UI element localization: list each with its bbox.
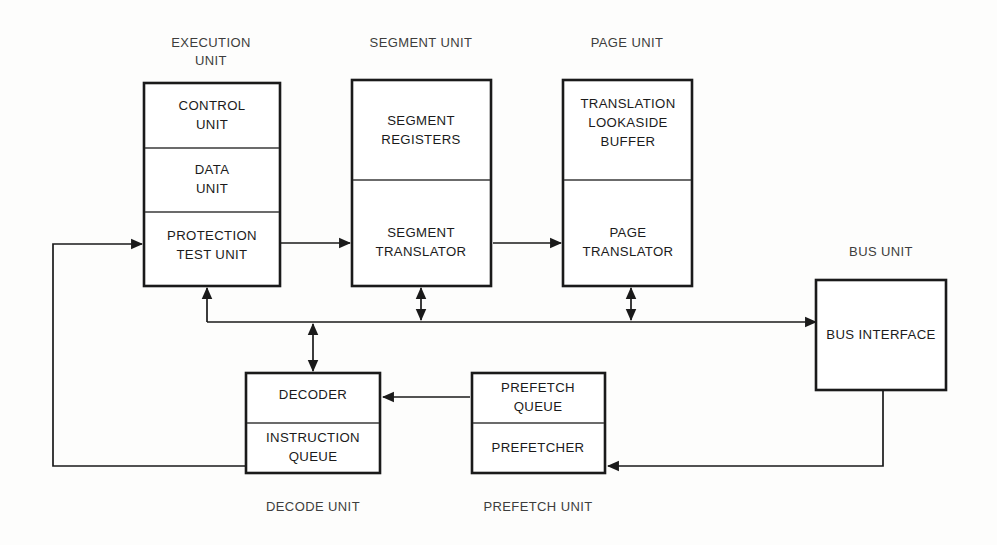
unit-title-execution-unit: EXECUTION UNIT xyxy=(171,35,250,68)
connection-bus-interface-to-prefetcher xyxy=(608,392,883,466)
segment-registers-label-line1: SEGMENT xyxy=(387,113,455,128)
segment-unit-box[interactable]: SEGMENT REGISTERS SEGMENT TRANSLATOR xyxy=(352,80,491,286)
bus-interface-label: BUS INTERFACE xyxy=(826,327,935,342)
cell-decoder[interactable]: DECODER xyxy=(279,387,347,402)
tlb-label-line1: TRANSLATION xyxy=(580,96,675,111)
prefetch-queue-label-line1: PREFETCH xyxy=(501,380,575,395)
prefetch-unit-box[interactable]: PREFETCH QUEUE PREFETCHER xyxy=(472,373,605,473)
data-unit-label-line2: UNIT xyxy=(196,181,228,196)
page-unit-box[interactable]: TRANSLATION LOOKASIDE BUFFER PAGE TRANSL… xyxy=(563,80,692,286)
execution-unit-title-line1: EXECUTION xyxy=(171,35,250,50)
segment-translator-label-line2: TRANSLATOR xyxy=(376,244,467,259)
page-translator-label-line2: TRANSLATOR xyxy=(583,244,674,259)
bus-unit-box[interactable]: BUS INTERFACE xyxy=(816,280,946,390)
data-unit-label-line1: DATA xyxy=(195,162,230,177)
diagram-canvas: EXECUTION UNIT SEGMENT UNIT PAGE UNIT BU… xyxy=(0,0,997,545)
segment-unit-title: SEGMENT UNIT xyxy=(370,35,473,50)
protection-test-unit-label-line1: PROTECTION xyxy=(167,228,257,243)
decoder-label: DECODER xyxy=(279,387,347,402)
prefetcher-label: PREFETCHER xyxy=(492,440,585,455)
page-translator-label-line1: PAGE xyxy=(609,225,646,240)
decode-unit-title: DECODE UNIT xyxy=(266,499,360,514)
control-unit-label-line1: CONTROL xyxy=(179,98,246,113)
instruction-queue-label-line1: INSTRUCTION xyxy=(266,430,360,445)
prefetch-unit-title: PREFETCH UNIT xyxy=(483,499,592,514)
tlb-label-line3: BUFFER xyxy=(601,134,656,149)
execution-unit-title-line2: UNIT xyxy=(195,53,227,68)
page-unit-title: PAGE UNIT xyxy=(591,35,664,50)
processor-block-diagram: EXECUTION UNIT SEGMENT UNIT PAGE UNIT BU… xyxy=(0,0,997,545)
decode-unit-box[interactable]: DECODER INSTRUCTION QUEUE xyxy=(246,373,380,473)
cell-bus-interface[interactable]: BUS INTERFACE xyxy=(826,327,935,342)
control-unit-label-line2: UNIT xyxy=(196,117,228,132)
instruction-queue-label-line2: QUEUE xyxy=(289,449,338,464)
execution-unit-box[interactable]: CONTROL UNIT DATA UNIT PROTECTION TEST U… xyxy=(144,83,280,286)
tlb-label-line2: LOOKASIDE xyxy=(588,115,667,130)
cell-prefetcher[interactable]: PREFETCHER xyxy=(492,440,585,455)
prefetch-queue-label-line2: QUEUE xyxy=(514,399,563,414)
bus-unit-title: BUS UNIT xyxy=(849,244,913,259)
protection-test-unit-label-line2: TEST UNIT xyxy=(176,247,247,262)
segment-registers-label-line2: REGISTERS xyxy=(381,132,460,147)
segment-translator-label-line1: SEGMENT xyxy=(387,225,455,240)
